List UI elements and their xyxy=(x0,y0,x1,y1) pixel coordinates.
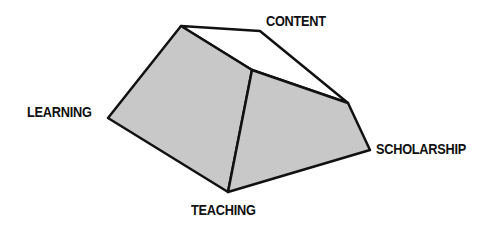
label-scholarship: SCHOLARSHIP xyxy=(376,140,466,157)
label-teaching: TEACHING xyxy=(191,201,256,218)
right-face xyxy=(228,70,370,192)
diagram-canvas: CONTENT LEARNING SCHOLARSHIP TEACHING xyxy=(0,0,504,234)
label-learning: LEARNING xyxy=(27,103,92,120)
label-content: CONTENT xyxy=(266,12,326,29)
